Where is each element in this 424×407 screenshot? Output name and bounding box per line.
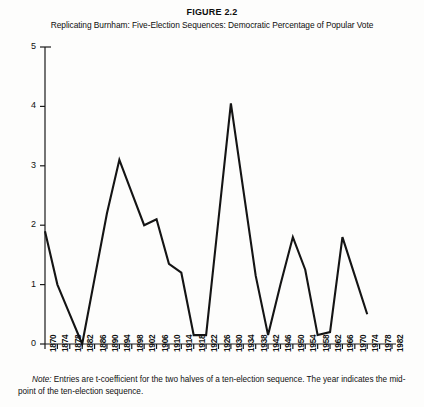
y-axis-label-3: 3 xyxy=(20,160,36,170)
data-series-line xyxy=(45,103,367,344)
y-axis-label-5: 5 xyxy=(20,41,36,51)
x-axis-label-1918: 1918 xyxy=(198,335,207,352)
x-axis-label-1882: 1882 xyxy=(86,335,95,352)
x-axis-label-1970: 1970 xyxy=(359,335,368,352)
note-label: Note: xyxy=(32,375,52,384)
figure-note: Note: Entries are t-coefficient for the … xyxy=(18,374,410,397)
x-axis-label-1890: 1890 xyxy=(111,335,120,352)
x-axis-label-1906: 1906 xyxy=(161,335,170,352)
x-axis-label-1878: 1878 xyxy=(74,335,83,352)
y-axis-label-2: 2 xyxy=(20,219,36,229)
x-axis-label-1946: 1946 xyxy=(284,335,293,352)
x-axis-label-1954: 1954 xyxy=(309,335,318,352)
note-text: Entries are t-coefficient for the two ha… xyxy=(18,375,405,396)
x-axis-label-1926: 1926 xyxy=(223,335,232,352)
x-axis-label-1934: 1934 xyxy=(247,335,256,352)
x-axis-label-1898: 1898 xyxy=(136,335,145,352)
x-axis-label-1870: 1870 xyxy=(49,335,58,352)
y-axis-label-0: 0 xyxy=(20,338,36,348)
x-axis-label-1974: 1974 xyxy=(371,335,380,352)
x-axis-label-1886: 1886 xyxy=(99,335,108,352)
x-axis-label-1930: 1930 xyxy=(235,335,244,352)
x-axis-label-1938: 1938 xyxy=(260,335,269,352)
chart-plot-area: 012345 187018741878188218861890189418981… xyxy=(0,0,424,407)
figure-container: FIGURE 2.2 Replicating Burnham: Five-Ele… xyxy=(0,0,424,407)
x-axis-label-1978: 1978 xyxy=(384,335,393,352)
x-axis-label-1958: 1958 xyxy=(322,335,331,352)
x-axis-label-1962: 1962 xyxy=(334,335,343,352)
y-axis-label-1: 1 xyxy=(20,279,36,289)
y-axis-label-4: 4 xyxy=(20,100,36,110)
x-axis-label-1914: 1914 xyxy=(185,335,194,352)
x-axis-label-1966: 1966 xyxy=(346,335,355,352)
x-axis-label-1902: 1902 xyxy=(148,335,157,352)
chart-tick-marks xyxy=(40,47,392,349)
x-axis-label-1874: 1874 xyxy=(61,335,70,352)
x-axis-label-1982: 1982 xyxy=(396,335,405,352)
x-axis-label-1942: 1942 xyxy=(272,335,281,352)
x-axis-label-1922: 1922 xyxy=(210,335,219,352)
x-axis-label-1950: 1950 xyxy=(297,335,306,352)
x-axis-label-1894: 1894 xyxy=(123,335,132,352)
x-axis-label-1910: 1910 xyxy=(173,335,182,352)
